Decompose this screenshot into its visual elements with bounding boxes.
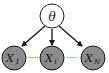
svg-text:i: i: [54, 58, 56, 66]
x1-subscript: 1: [15, 58, 19, 66]
xi-label: X: [44, 52, 54, 65]
xi-subscript: i: [54, 58, 56, 66]
theta-label: θ: [48, 10, 56, 24]
svg-text:1: 1: [15, 58, 19, 66]
node-xi: X i: [40, 46, 64, 70]
xN-label: X: [84, 52, 94, 65]
node-theta: θ: [40, 4, 64, 28]
x1-label: X: [5, 52, 15, 65]
edges: [22, 26, 82, 46]
node-xN: X N: [81, 46, 105, 70]
svg-text:X: X: [44, 52, 54, 65]
svg-text:N: N: [93, 58, 101, 66]
xN-subscript: N: [93, 58, 101, 66]
graphical-model-diagram: θ X 1 ····· X i ····· X N: [0, 0, 109, 73]
ellipsis-left: ·····: [27, 54, 38, 62]
svg-text:X: X: [5, 52, 15, 65]
ellipsis-right: ·····: [66, 54, 77, 62]
edge-theta-xN: [59, 26, 82, 46]
node-x1: X 1: [2, 46, 26, 70]
edge-theta-x1: [22, 26, 45, 46]
svg-text:X: X: [84, 52, 94, 65]
